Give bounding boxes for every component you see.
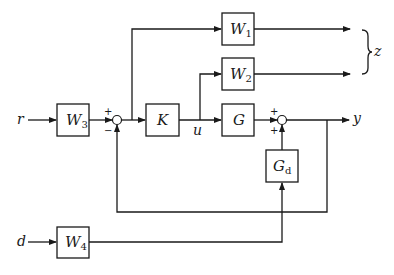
svg-text:G: G: [233, 111, 245, 129]
brace-icon: [362, 30, 372, 74]
summing-junction-1: + −: [104, 106, 122, 136]
block-g: G: [222, 104, 254, 136]
svg-text:+: +: [270, 106, 278, 117]
svg-text:−: −: [104, 125, 112, 136]
signal-u: u: [193, 122, 202, 138]
signal-d: d: [17, 233, 26, 249]
block-diagram: W3 K G W1 W2 Gd W4 + − + + r d u y z: [0, 0, 394, 275]
svg-text:+: +: [104, 106, 112, 117]
signal-r: r: [17, 111, 25, 127]
block-w2: W2: [222, 58, 254, 90]
block-w1: W1: [222, 13, 254, 45]
block-w4: W4: [57, 227, 89, 258]
summing-junction-2: + +: [270, 106, 287, 136]
svg-text:K: K: [156, 111, 169, 129]
block-w3: W3: [57, 104, 89, 136]
svg-text:+: +: [270, 125, 278, 136]
block-gd: Gd: [266, 150, 298, 182]
wire-u-w2: [200, 74, 221, 120]
signal-z: z: [373, 43, 382, 59]
signal-y: y: [352, 110, 362, 126]
block-k: K: [146, 104, 179, 136]
